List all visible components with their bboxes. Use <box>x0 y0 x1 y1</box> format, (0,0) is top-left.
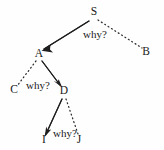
node-a: A <box>35 47 44 59</box>
node-d: D <box>60 84 68 96</box>
node-j: J <box>77 133 82 145</box>
derivation-tree-diagram: why? why? why? S A B C D I J <box>0 0 164 150</box>
node-c: C <box>10 83 18 95</box>
edge-label-why-2: why? <box>26 79 50 91</box>
edge-s-to-a <box>42 21 90 53</box>
node-s: S <box>91 5 97 17</box>
node-b: B <box>142 45 150 57</box>
edge-label-why-3: why? <box>53 127 77 139</box>
edge-label-why-1: why? <box>83 28 107 40</box>
node-i: I <box>42 133 46 145</box>
tree-canvas: why? why? why? S A B C D I J <box>0 0 164 150</box>
edge-s-to-a-arrowhead <box>42 45 54 53</box>
